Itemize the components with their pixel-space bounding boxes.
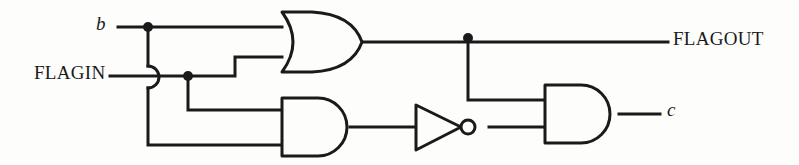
inverter-bubble-icon <box>461 120 475 134</box>
wire-flagin-to-and1 <box>188 76 282 110</box>
junction-flagout-tap <box>463 33 473 43</box>
and-gate-lower-left <box>282 98 347 156</box>
or-gate <box>282 12 362 72</box>
wire-flagout-to-and2 <box>468 38 545 100</box>
input-label-flagin: FLAGIN <box>34 63 105 82</box>
not-gate <box>416 105 461 150</box>
input-label-b: b <box>96 14 106 33</box>
wire-flagin-to-or <box>110 57 282 76</box>
output-label-c: c <box>667 100 675 119</box>
circuit-schematic-svg <box>0 0 799 165</box>
output-label-flagout: FLAGOUT <box>673 29 764 48</box>
junction-b-tap <box>143 22 153 32</box>
and-gate-output <box>545 85 610 143</box>
wire-b-to-and1 <box>148 88 282 145</box>
logic-circuit-figure: b FLAGIN FLAGOUT c <box>0 0 799 165</box>
junction-flagin-tap <box>183 71 193 81</box>
